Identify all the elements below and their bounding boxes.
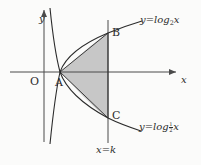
vertical-line-label-value: k <box>110 144 116 155</box>
x-axis-label: x <box>181 75 187 85</box>
y-axis-label: y <box>39 14 45 24</box>
origin-label: O <box>30 76 39 87</box>
point-label-A: A <box>55 77 63 88</box>
point-label-B: B <box>112 27 120 38</box>
point-label-C: C <box>112 110 120 121</box>
vertical-line-label: x=k <box>96 145 116 155</box>
curve-label-log-half-text: y=log <box>139 121 169 132</box>
curve-label-log2: y=log2x <box>140 15 179 26</box>
math-figure: y x O A B C y=log2x y=log12x x=k <box>0 0 201 165</box>
curve-label-log2-text: y=log <box>140 14 170 25</box>
curve-label-log2-variable: x <box>174 14 180 25</box>
vertical-line-label-equals: = <box>102 144 110 155</box>
curve-label-log-half: y=log12x <box>139 122 179 133</box>
x-axis-arrowhead <box>169 69 176 75</box>
curve-label-log-half-variable: x <box>173 121 179 132</box>
